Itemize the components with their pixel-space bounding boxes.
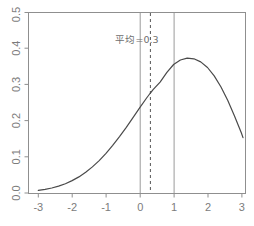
y-tick-label: 0.5 (10, 7, 22, 22)
x-tick-label: -1 (101, 201, 111, 213)
y-axis-ticks (25, 13, 29, 194)
x-tick-label: -2 (67, 201, 77, 213)
x-axis-tick-labels: -3 -2 -1 0 1 2 3 (33, 201, 245, 213)
x-tick-label: 1 (171, 201, 177, 213)
x-axis-ticks (38, 194, 242, 198)
x-tick-label: 2 (205, 201, 211, 213)
mean-annotation-label: 平均=0.3 (115, 34, 158, 45)
chart-title-clipped (42, 0, 212, 4)
y-tick-label: 0.4 (10, 41, 22, 56)
normal-distribution-chart: 0.0 0.1 0.2 0.3 0.4 0.5 -3 -2 -1 0 1 2 3… (0, 0, 254, 226)
x-tick-label: -3 (33, 201, 43, 213)
y-tick-label: 0.0 (10, 185, 22, 200)
y-tick-label: 0.2 (10, 113, 22, 128)
y-tick-label: 0.1 (10, 149, 22, 164)
x-tick-label: 3 (239, 201, 245, 213)
chart-canvas: 0.0 0.1 0.2 0.3 0.4 0.5 -3 -2 -1 0 1 2 3… (0, 0, 254, 226)
y-axis-tick-labels: 0.0 0.1 0.2 0.3 0.4 0.5 (10, 7, 22, 201)
y-tick-label: 0.3 (10, 77, 22, 92)
x-tick-label: 0 (137, 201, 143, 213)
